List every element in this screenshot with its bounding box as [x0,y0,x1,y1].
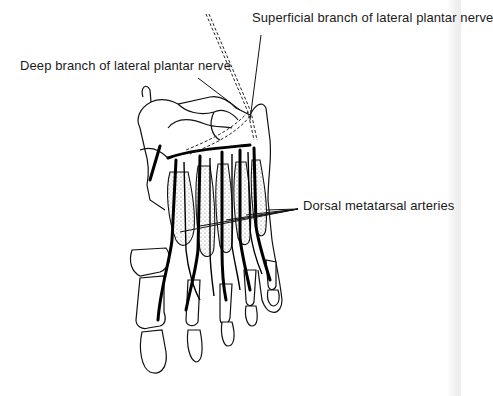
phalanges [130,248,279,373]
label-deep-branch: Deep branch of lateral plantar nerve [20,58,231,73]
lateral-plantar-nerve [186,14,257,154]
label-superficial-branch: Superficial branch of lateral plantar ne… [252,10,493,25]
label-dorsal-metatarsal-arteries: Dorsal metatarsal arteries [303,198,454,213]
